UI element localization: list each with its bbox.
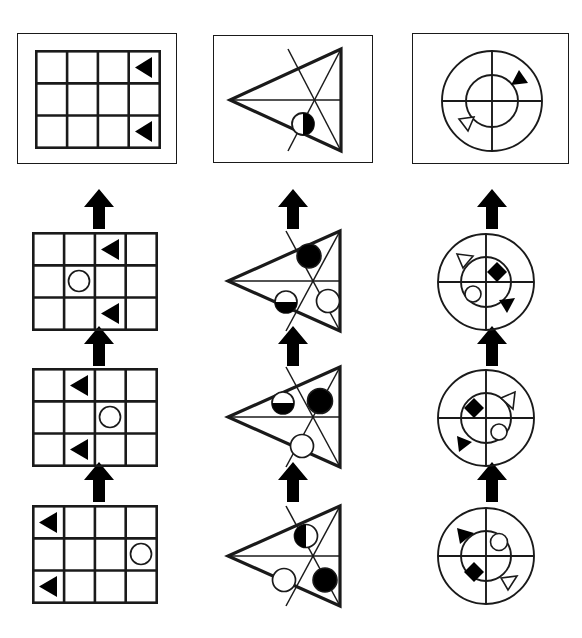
glyph-circle-filled [308,389,333,414]
arrow-up-circle-3 [475,188,509,230]
circle-step-3 [427,228,545,336]
triangle-step-2 [222,364,356,470]
glyph-triangle-open [457,254,473,268]
grid-step-3 [32,232,158,331]
glyph-circle-half-bottom [272,392,294,414]
circle-panel-top-figure [433,45,551,157]
triangle-panel-top-figure [226,44,360,156]
grid-step-1 [32,505,158,604]
circle-step-1 [427,502,545,610]
glyph-left-triangle-filled [39,512,57,533]
glyph-circle-half-bottom [275,291,297,313]
glyph-circle-open-small [491,534,508,551]
triangle-panel-top [213,35,373,163]
glyph-circle-half-right [292,113,314,135]
grid-step-2 [32,368,158,467]
arrow-up-grid-3 [82,188,116,230]
glyph-circle-open [69,271,90,292]
glyph-triangle-open [501,576,517,590]
circle-panel-top [412,33,569,164]
arrow-up-triangle-3 [276,188,310,230]
glyph-circle-filled [297,244,321,268]
arrow-up-grid-2 [82,325,116,367]
glyph-triangle-filled [457,436,472,452]
glyph-circle-open-small [465,286,481,302]
glyph-left-triangle-filled [101,303,119,324]
glyph-left-triangle-filled [70,439,88,460]
glyph-left-triangle-filled [39,576,57,597]
glyph-circle-open [291,435,314,458]
glyph-circle-open [317,290,340,313]
triangle-step-3 [222,228,356,334]
glyph-circle-open [100,407,121,428]
grid-panel-top [17,33,177,164]
glyph-triangle-open [459,117,474,131]
glyph-left-triangle-filled [101,239,119,260]
glyph-circle-filled [313,568,337,592]
glyph-circle-open [131,544,152,565]
glyph-triangle-filled [499,298,515,313]
glyph-diamond-filled [464,562,484,582]
glyph-circle-half-left [295,525,318,548]
glyph-circle-open [273,569,296,592]
arrow-up-grid-1 [82,461,116,503]
triangle-step-1 [222,503,356,609]
circle-step-2 [427,364,545,472]
glyph-circle-open-small [491,424,507,440]
grid-panel-top-figure [35,50,161,149]
glyph-left-triangle-filled [70,375,88,396]
figure-canvas [0,0,582,638]
glyph-triangle-filled [511,70,528,85]
